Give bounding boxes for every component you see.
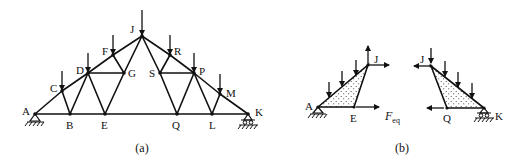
node-label-L: L bbox=[209, 119, 216, 131]
node-F bbox=[111, 53, 115, 57]
node-D bbox=[86, 71, 90, 75]
node-label-K: K bbox=[495, 110, 503, 122]
truss-members bbox=[35, 36, 248, 114]
node-label-D: D bbox=[76, 64, 84, 76]
node-label-P: P bbox=[199, 65, 205, 77]
node-A bbox=[33, 112, 37, 116]
node-A bbox=[316, 105, 319, 108]
node-K bbox=[246, 112, 250, 116]
node-R bbox=[168, 53, 172, 57]
node-label-F: F bbox=[102, 45, 108, 57]
node-label-A: A bbox=[22, 105, 30, 117]
load-arrows bbox=[62, 10, 220, 93]
right-free-body: JQK bbox=[414, 48, 503, 124]
node-label-E: E bbox=[350, 112, 357, 124]
node-E bbox=[352, 105, 355, 108]
member-AC bbox=[35, 91, 62, 114]
node-label-R: R bbox=[174, 45, 182, 57]
node-M bbox=[218, 92, 222, 96]
roller-support-icon bbox=[474, 108, 494, 122]
member-SQ bbox=[160, 73, 177, 114]
member-SR bbox=[160, 55, 170, 73]
node-J bbox=[140, 34, 144, 38]
caption-a: (a) bbox=[135, 141, 148, 155]
left-section-shape bbox=[318, 65, 368, 107]
caption-b: (b) bbox=[395, 141, 409, 155]
node-label-S: S bbox=[149, 67, 155, 79]
node-E bbox=[103, 112, 107, 116]
member-GE bbox=[105, 73, 124, 114]
member-PL bbox=[194, 73, 212, 114]
node-label-J: J bbox=[420, 53, 425, 65]
node-Q bbox=[175, 112, 179, 116]
node-Q bbox=[445, 106, 448, 109]
node-label-A: A bbox=[305, 100, 313, 112]
node-J bbox=[429, 64, 432, 67]
node-label-J: J bbox=[374, 53, 379, 65]
panel-a-full-truss: ABCDEFGJRSPMQLK (a) bbox=[22, 10, 263, 155]
node-G bbox=[122, 71, 126, 75]
panel-b-free-bodies: AEJ Feq bbox=[305, 46, 503, 155]
node-label-Q: Q bbox=[172, 119, 180, 131]
supports bbox=[25, 114, 258, 129]
node-C bbox=[60, 89, 64, 93]
member-FG bbox=[113, 55, 124, 73]
node-label-M: M bbox=[226, 87, 236, 99]
node-label-E: E bbox=[101, 119, 108, 131]
node-labels: ABCDEFGJRSPMQLK bbox=[22, 23, 263, 131]
node-P bbox=[192, 71, 196, 75]
node-label-B: B bbox=[66, 119, 73, 131]
member-LM bbox=[212, 94, 220, 114]
truss-figure: ABCDEFGJRSPMQLK (a) bbox=[0, 0, 526, 164]
node-L bbox=[210, 112, 214, 116]
feq-label: Feq bbox=[384, 109, 400, 125]
node-J bbox=[366, 63, 369, 66]
member-QP bbox=[177, 73, 194, 114]
member-DE bbox=[88, 73, 105, 114]
node-S bbox=[158, 71, 162, 75]
node-B bbox=[68, 112, 72, 116]
member-RP bbox=[170, 55, 194, 73]
node-label-K: K bbox=[255, 106, 263, 118]
member-DF bbox=[88, 55, 113, 73]
node-label-Q: Q bbox=[443, 112, 451, 124]
node-label-C: C bbox=[50, 82, 57, 94]
left-free-body: AEJ bbox=[305, 46, 389, 124]
node-label-J: J bbox=[130, 23, 135, 35]
node-K bbox=[482, 106, 485, 109]
node-label-G: G bbox=[128, 67, 136, 79]
member-CB bbox=[62, 91, 70, 114]
